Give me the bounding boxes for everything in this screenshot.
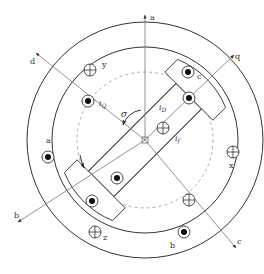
axis-label-c: c [237,237,242,246]
conductor-stator-c [182,66,194,78]
axis-label-q: q [235,52,240,61]
conductor-rotor-iD [157,122,169,134]
conductor-rotor-lower-left [86,195,98,207]
label-iQ: iQ [99,99,107,109]
conductor-stator-z [89,226,101,238]
stator-label-c: c [197,72,202,81]
conductor-rotor-inner-left [111,172,123,184]
conductor-rotor-lower-pole [183,194,195,206]
dot-icon [181,229,187,235]
dot-icon [89,198,95,204]
conductor-rotor-iQ [82,95,94,107]
conductor-stator-a [42,151,54,163]
machine-diagram: a b c d q σ a x b y c z [0,0,264,274]
stator-label-a: a [46,136,51,145]
conductor-stator-b [178,226,190,238]
conductor-rotor-q-outer [183,92,195,104]
dot-icon [45,154,51,160]
dot-icon [114,175,120,181]
conductor-stator-x [227,146,239,158]
axis-label-b: b [14,211,19,220]
sigma-label: σ [121,109,128,119]
stator-label-x: x [229,161,234,170]
conductor-stator-y [84,64,96,76]
axis-label-d: d [30,57,35,66]
stator-label-b: b [170,241,175,250]
stator-label-y: y [101,60,107,69]
dot-icon [186,95,192,101]
axis-label-a: a [150,13,155,22]
dot-icon [85,98,91,104]
dot-icon [185,69,191,75]
stator-label-z: z [103,233,107,242]
label-if: if [175,134,182,145]
